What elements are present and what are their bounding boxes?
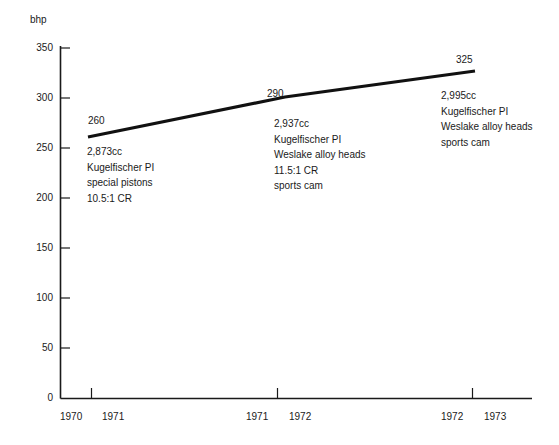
annotation-290-line-2: Kugelfischer PI [274,132,366,148]
y-tick-label-350: 350 [8,43,53,53]
annotation-block-325: 2,995cc Kugelfischer PI Weslake alloy he… [441,88,533,150]
y-axis-ticks [61,48,71,348]
annotation-290-line-4: 11.5:1 CR [274,163,366,179]
x-tick-label-1973: 1973 [484,412,506,422]
annotation-325-line-1: 2,995cc [441,88,533,104]
annotation-290-line-5: sports cam [274,178,366,194]
annotation-290-line-1: 2,937cc [274,116,366,132]
annotation-260-line-1: 2,873cc [87,144,154,160]
annotation-260-line-4: 10.5:1 CR [87,191,154,207]
y-tick-label-150: 150 [8,243,53,253]
bhp-development-chart: bhp 350 300 250 200 150 100 50 0 1970 19… [0,0,559,445]
y-tick-label-300: 300 [8,93,53,103]
chart-canvas [0,0,559,445]
x-tick-label-1972-b: 1972 [441,412,463,422]
data-value-label-325: 325 [456,55,473,65]
annotation-block-260: 2,873cc Kugelfischer PI special pistons … [87,144,154,206]
x-tick-label-1971-a: 1971 [102,412,124,422]
y-tick-label-0: 0 [8,393,53,403]
y-axis-title: bhp [30,14,47,26]
data-value-label-290: 290 [267,89,284,99]
annotation-325-line-3: Weslake alloy heads [441,119,533,135]
y-tick-label-250: 250 [8,143,53,153]
y-tick-label-200: 200 [8,193,53,203]
x-tick-label-1971-b: 1971 [246,412,268,422]
y-tick-label-100: 100 [8,293,53,303]
annotation-260-line-3: special pistons [87,175,154,191]
annotation-block-290: 2,937cc Kugelfischer PI Weslake alloy he… [274,116,366,194]
annotation-325-line-4: sports cam [441,135,533,151]
data-value-label-260: 260 [88,116,105,126]
annotation-290-line-3: Weslake alloy heads [274,147,366,163]
x-tick-label-1970: 1970 [60,412,82,422]
y-tick-label-50: 50 [8,343,53,353]
x-axis-ticks [92,388,473,399]
x-tick-label-1972-a: 1972 [289,412,311,422]
annotation-260-line-2: Kugelfischer PI [87,160,154,176]
annotation-325-line-2: Kugelfischer PI [441,104,533,120]
